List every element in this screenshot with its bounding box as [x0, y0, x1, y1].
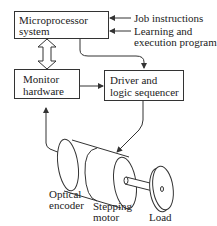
stepping-motor-label-line2: motor [93, 212, 119, 223]
monitor-hardware-block: Monitor hardware [14, 69, 80, 99]
microprocessor-label-line2: system [19, 26, 50, 37]
load-disc [147, 165, 176, 213]
job-instructions-label: Job instructions [134, 13, 203, 24]
optical-encoder-label-line2: encoder [49, 200, 84, 211]
monitor-label-line2: hardware [23, 86, 64, 97]
encoder-feedback-arrow [46, 108, 60, 153]
monitor-label-line1: Monitor [23, 74, 59, 85]
microprocessor-system-block: Microprocessor system [14, 11, 109, 39]
driver-to-motor-arrow [117, 101, 143, 152]
driver-logic-sequencer-block: Driver and logic sequencer [104, 70, 184, 101]
load-label: Load [149, 212, 172, 223]
bidirectional-bus-arrow [38, 39, 56, 69]
driver-label-line1: Driver and [110, 75, 157, 86]
learning-program-label-line2: execution program [134, 37, 217, 48]
driver-label-line2: logic sequencer [110, 87, 179, 98]
